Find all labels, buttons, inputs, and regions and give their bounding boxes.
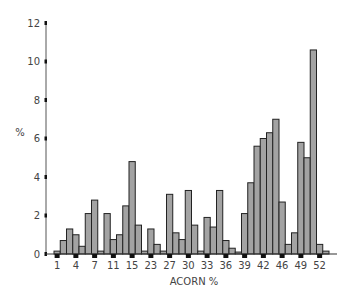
- y-tick-mark: [45, 21, 48, 25]
- bar: [73, 235, 79, 254]
- bar: [285, 244, 291, 254]
- bar: [185, 190, 191, 254]
- bar: [279, 202, 285, 254]
- y-tick-label: 6: [34, 133, 40, 144]
- y-axis-title: %: [15, 127, 25, 138]
- bar: [267, 133, 273, 254]
- bar: [192, 225, 198, 254]
- bar-chart: 024681012 147111523273033363942464952 % …: [0, 0, 356, 304]
- bar: [117, 235, 123, 254]
- bar: [273, 119, 279, 254]
- y-tick-mark: [45, 98, 48, 102]
- x-tick-label: 15: [126, 260, 139, 271]
- x-tick-label: 1: [54, 260, 60, 271]
- bar: [154, 244, 160, 254]
- bar: [123, 206, 129, 254]
- x-tick-mark: [130, 254, 135, 258]
- x-tick-label: 36: [220, 260, 233, 271]
- x-tick-mark: [261, 254, 266, 258]
- x-tick-label: 46: [276, 260, 289, 271]
- bar: [167, 194, 173, 254]
- y-tick-mark: [45, 175, 48, 179]
- bars-group: [54, 50, 329, 254]
- x-tick-label: 11: [107, 260, 120, 271]
- y-tick-mark: [45, 214, 48, 218]
- x-axis-title: ACORN %: [170, 276, 219, 287]
- x-tick-label: 27: [163, 260, 176, 271]
- bar: [85, 214, 91, 254]
- x-tick-mark: [55, 254, 60, 258]
- y-tick-label: 10: [27, 56, 40, 67]
- x-tick-mark: [148, 254, 153, 258]
- bar: [304, 158, 310, 254]
- bar: [60, 241, 66, 254]
- y-tick-label: 8: [34, 95, 40, 106]
- bar: [248, 183, 254, 254]
- x-tick-mark: [92, 254, 97, 258]
- bar: [310, 50, 316, 254]
- bar: [110, 240, 116, 254]
- bar: [79, 246, 85, 254]
- bar: [129, 162, 135, 254]
- x-tick-mark: [242, 254, 247, 258]
- y-tick-label: 12: [27, 18, 40, 29]
- x-tick-mark: [186, 254, 191, 258]
- bar: [260, 139, 266, 255]
- y-ticks: 024681012: [27, 18, 47, 260]
- x-tick-mark: [298, 254, 303, 258]
- bar: [204, 217, 210, 254]
- x-tick-mark: [223, 254, 228, 258]
- x-tick-label: 7: [91, 260, 97, 271]
- bar: [173, 233, 179, 254]
- bar: [217, 190, 223, 254]
- bar: [292, 233, 298, 254]
- x-tick-label: 49: [295, 260, 308, 271]
- y-tick-label: 2: [34, 210, 40, 221]
- y-tick-mark: [45, 60, 48, 64]
- bar: [210, 227, 216, 254]
- x-tick-label: 33: [201, 260, 214, 271]
- x-tick-label: 52: [313, 260, 326, 271]
- bar: [298, 142, 304, 254]
- x-tick-mark: [317, 254, 322, 258]
- x-ticks: 147111523273033363942464952: [54, 254, 326, 271]
- x-tick-mark: [167, 254, 172, 258]
- x-tick-label: 4: [73, 260, 79, 271]
- bar: [242, 214, 248, 254]
- bar: [92, 200, 98, 254]
- x-tick-label: 39: [238, 260, 251, 271]
- x-tick-label: 42: [257, 260, 270, 271]
- x-tick-label: 30: [182, 260, 195, 271]
- bar: [223, 241, 229, 254]
- bar: [317, 244, 323, 254]
- x-tick-mark: [205, 254, 210, 258]
- bar: [135, 225, 141, 254]
- x-tick-mark: [280, 254, 285, 258]
- bar: [254, 146, 260, 254]
- bar: [67, 229, 73, 254]
- bar: [179, 240, 185, 254]
- bar: [148, 229, 154, 254]
- x-tick-mark: [111, 254, 116, 258]
- x-tick-label: 23: [145, 260, 158, 271]
- y-tick-label: 4: [34, 172, 40, 183]
- y-tick-mark: [45, 137, 48, 141]
- x-tick-mark: [73, 254, 78, 258]
- y-tick-label: 0: [34, 249, 40, 260]
- bar: [229, 248, 235, 254]
- bar: [104, 214, 110, 254]
